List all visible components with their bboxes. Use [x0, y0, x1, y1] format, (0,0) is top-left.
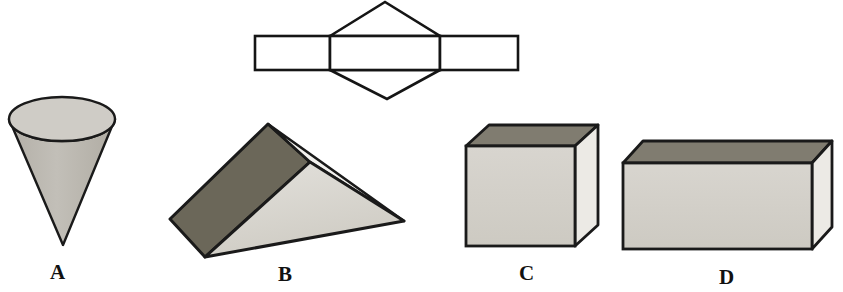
net-right-rectangle — [440, 36, 518, 70]
cube-front-face — [466, 146, 575, 246]
figure-illustration — [0, 0, 843, 292]
prism-shape-b — [170, 124, 404, 257]
shape-label-b: B — [278, 264, 293, 285]
cone-base-ellipse — [9, 97, 115, 141]
figure-canvas: A B C D — [0, 0, 843, 292]
triangular-prism-net — [255, 2, 518, 99]
shape-label-c: C — [519, 263, 535, 284]
net-left-rectangle — [255, 36, 330, 70]
box-shape-d — [623, 141, 832, 249]
cube-right-face — [575, 125, 598, 246]
net-middle-rectangle — [330, 36, 440, 70]
box-top-face — [623, 141, 832, 163]
shape-label-d: D — [719, 267, 735, 288]
cube-shape-c — [466, 125, 598, 246]
net-bottom-triangle — [330, 70, 440, 99]
shape-label-a: A — [50, 262, 66, 283]
box-front-face — [623, 163, 812, 249]
cone-shape-a — [9, 97, 115, 245]
net-top-triangle — [330, 2, 440, 36]
